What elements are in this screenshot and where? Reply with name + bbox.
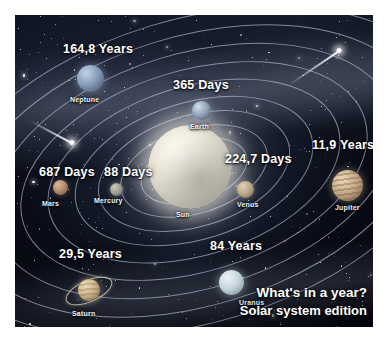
label-jupiter-period: 11,9 Years bbox=[312, 138, 373, 152]
label-mars-period: 687 Days bbox=[39, 165, 95, 179]
body-mars bbox=[53, 180, 68, 195]
label-saturn-period: 29,5 Years bbox=[59, 247, 122, 261]
label-saturn-name: Saturn bbox=[72, 310, 95, 317]
label-mercury-period: 88 Days bbox=[104, 165, 153, 179]
body-mercury bbox=[110, 183, 123, 196]
body-saturn bbox=[78, 279, 100, 301]
label-mercury-name: Mercury bbox=[94, 197, 123, 204]
label-neptune-name: Neptune bbox=[70, 96, 99, 103]
label-earth-name: Earth bbox=[190, 123, 209, 130]
body-neptune bbox=[77, 65, 104, 92]
label-venus-name: Venus bbox=[237, 201, 259, 208]
body-venus bbox=[237, 181, 254, 198]
label-mars-name: Mars bbox=[42, 200, 59, 207]
body-uranus bbox=[219, 270, 244, 295]
solar-system-poster: Sun Mercury 88 Days Venus 224,7 Days Ear… bbox=[15, 15, 373, 327]
label-earth-period: 365 Days bbox=[173, 78, 229, 92]
label-sun-name: Sun bbox=[176, 211, 190, 218]
label-neptune-period: 164,8 Years bbox=[63, 42, 133, 56]
body-earth bbox=[192, 101, 211, 120]
body-saturn-group bbox=[65, 271, 111, 309]
label-venus-period: 224,7 Days bbox=[225, 152, 292, 166]
label-uranus-period: 84 Years bbox=[210, 239, 262, 253]
poster-subtitle: Solar system edition bbox=[240, 303, 367, 318]
body-jupiter bbox=[332, 170, 363, 201]
body-sun bbox=[148, 125, 232, 209]
poster-title: What's in a year? bbox=[257, 285, 368, 300]
label-jupiter-name: Jupiter bbox=[335, 204, 360, 211]
